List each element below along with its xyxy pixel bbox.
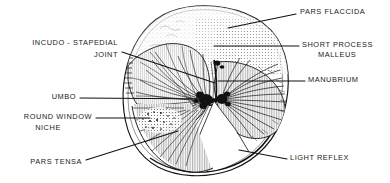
label-light-reflex: LIGHT REFLEX: [290, 153, 349, 163]
label-niche: NICHE: [4, 123, 92, 133]
label-umbo: UMBO: [8, 92, 76, 102]
label-pars-flaccida: PARS FLACCIDA: [300, 7, 365, 17]
label-malleus: MALLEUS: [318, 50, 356, 60]
label-round-window: ROUND WINDOW: [4, 112, 92, 122]
label-joint: JOINT: [8, 50, 118, 60]
round-window-niche-marker: [138, 107, 182, 133]
label-short-process: SHORT PROCESS: [302, 40, 373, 50]
label-pars-tensa: PARS TENSA: [4, 157, 82, 167]
figure-canvas: PARS FLACCIDA SHORT PROCESS MALLEUS MANU…: [0, 0, 390, 183]
label-incudo-stapedial: INCUDO - STAPEDIAL: [8, 38, 118, 48]
label-manubrium: MANUBRIUM: [308, 75, 359, 85]
